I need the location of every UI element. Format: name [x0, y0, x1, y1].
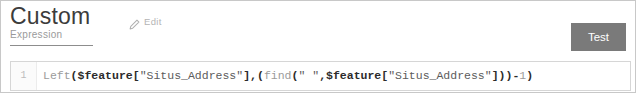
code-token: ] — [492, 69, 499, 82]
line-number: 1 — [11, 69, 36, 83]
code-token: ) — [526, 69, 533, 82]
edit-button[interactable]: Edit — [129, 16, 162, 27]
editor-code-area[interactable]: Left($feature["Situs_Address"],(find(" "… — [37, 62, 630, 90]
expression-line[interactable]: Left($feature["Situs_Address"],(find(" "… — [43, 69, 630, 83]
code-token: $feature — [326, 69, 381, 82]
panel-subtitle: Expression — [10, 28, 93, 41]
editor-gutter: 1 — [11, 62, 37, 90]
title-block: Custom Expression — [10, 3, 93, 46]
code-token: "Situs_Address" — [388, 69, 492, 82]
code-token: " " — [298, 69, 319, 82]
panel-header: Custom Expression Edit Test — [10, 3, 630, 49]
pencil-icon — [129, 16, 140, 27]
code-token: $feature — [78, 69, 133, 82]
custom-expression-panel: Custom Expression Edit Test 1 Left($feat… — [0, 0, 636, 93]
subtitle-divider — [10, 45, 93, 46]
code-token: find — [264, 69, 292, 82]
code-token: ) — [499, 69, 506, 82]
code-token: "Situs_Address" — [140, 69, 244, 82]
code-token: , — [250, 69, 257, 82]
edit-label: Edit — [144, 16, 162, 27]
code-token: , — [319, 69, 326, 82]
code-token: ( — [257, 69, 264, 82]
expression-code-editor[interactable]: 1 Left($feature["Situs_Address"],(find("… — [10, 61, 631, 91]
code-token: [ — [133, 69, 140, 82]
page-title: Custom — [10, 3, 93, 29]
code-token: Left — [43, 69, 71, 82]
code-token: ( — [71, 69, 78, 82]
test-button[interactable]: Test — [571, 23, 626, 51]
